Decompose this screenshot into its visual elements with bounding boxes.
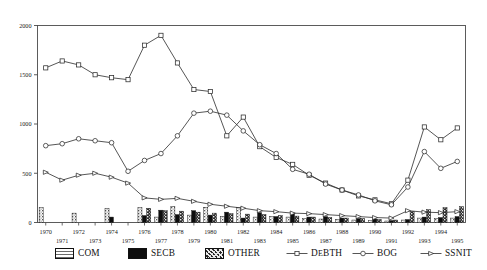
legend-item-ssnit[interactable]: SSNIT [420, 241, 472, 265]
marker-ssnit-1976 [142, 196, 147, 200]
bar-com-1980 [204, 207, 208, 222]
x-axis-tick-label: 1978 [171, 228, 183, 235]
marker-debth-1981 [225, 134, 229, 138]
marker-ssnit-1991 [389, 216, 394, 220]
legend-linekey-bog [352, 249, 374, 258]
marker-bog-1981 [225, 113, 230, 118]
marker-ssnit-1995 [455, 210, 460, 214]
legend-linekey-debth [286, 249, 308, 258]
bar-com-1976 [138, 208, 142, 223]
bar-other-1982 [245, 214, 249, 222]
legend-label-secb: SECB [151, 248, 175, 258]
y-axis-tick-label: 1000 [19, 120, 31, 127]
x-axis-tick-label: 1992 [402, 228, 414, 235]
marker-bog-1986 [307, 172, 312, 177]
marker-bog-1984 [274, 151, 279, 156]
bar-com-1985 [286, 217, 290, 222]
marker-bog-1974 [109, 140, 114, 145]
bar-secb-1993 [422, 217, 426, 222]
bar-other-1976 [147, 208, 151, 222]
marker-debth-1980 [208, 89, 212, 93]
marker-ssnit-1974 [109, 175, 114, 179]
marker-ssnit-1993 [422, 210, 427, 214]
legend-label-com: COM [78, 248, 100, 258]
marker-debth-1976 [142, 43, 146, 47]
legend-item-debth[interactable]: DEBTH [286, 241, 342, 265]
x-axis-tick-label: 1990 [369, 228, 381, 235]
legend-item-bog[interactable]: BOG [352, 241, 397, 265]
marker-ssnit-1970 [43, 170, 48, 174]
marker-bog-1989 [356, 193, 361, 198]
bar-secb-1979 [192, 211, 196, 223]
marker-bog-1983 [257, 142, 262, 147]
bar-other-1992 [410, 212, 414, 223]
chart-legend: COMSECBOTHERDEBTHBOGSSNIT [0, 241, 487, 265]
bar-secb-1988 [340, 218, 344, 222]
bar-other-1987 [328, 218, 332, 223]
bar-secb-1981 [225, 212, 229, 222]
x-axis-tick-label: 1976 [138, 228, 150, 235]
plot-frame [38, 26, 466, 223]
bar-com-1990 [368, 221, 372, 223]
bar-other-1995 [459, 207, 463, 223]
chart-figure: 1970197119721973197419751976197719781979… [0, 0, 487, 270]
marker-debth-1975 [126, 78, 130, 82]
marker-ssnit-1986 [307, 212, 312, 216]
bar-secb-1983 [258, 213, 262, 223]
bar-secb-1991 [389, 221, 393, 223]
bar-com-1988 [335, 220, 339, 223]
marker-debth-1970 [44, 66, 48, 70]
bar-com-1987 [319, 219, 323, 222]
line-debth [46, 35, 458, 203]
bar-secb-1976 [142, 216, 146, 223]
bar-secb-1989 [356, 219, 360, 223]
legend-swatch-other [205, 248, 224, 259]
bar-com-1986 [303, 219, 307, 223]
legend-item-com[interactable]: COM [55, 241, 100, 265]
marker-ssnit-1994 [438, 211, 443, 215]
marker-debth-1992 [406, 178, 410, 182]
marker-ssnit-1979 [191, 199, 196, 203]
legend-marker-ssnit [429, 251, 434, 255]
bar-secb-1992 [406, 220, 410, 223]
x-axis-tick-label: 1982 [237, 228, 249, 235]
bar-secb-1995 [455, 217, 459, 223]
bar-com-1972 [72, 213, 76, 222]
y-axis-tick-label: 1500 [19, 71, 31, 78]
marker-ssnit-1983 [257, 209, 262, 213]
marker-debth-1974 [109, 76, 113, 80]
marker-bog-1971 [60, 141, 65, 146]
marker-debth-1971 [60, 59, 64, 63]
marker-bog-1995 [455, 159, 460, 164]
marker-bog-1985 [290, 167, 295, 172]
legend-swatch-secb [128, 248, 147, 259]
bar-com-1977 [154, 217, 158, 222]
legend-item-secb[interactable]: SECB [128, 241, 175, 265]
bar-com-1983 [253, 217, 257, 222]
marker-debth-1995 [455, 126, 459, 130]
marker-debth-1973 [93, 73, 97, 77]
bar-com-1974 [105, 208, 109, 222]
bar-com-1981 [220, 217, 224, 223]
y-axis-tick-label: 0 [28, 219, 31, 226]
marker-debth-1977 [159, 33, 163, 37]
marker-ssnit-1982 [241, 206, 246, 210]
bar-com-1995 [451, 218, 455, 222]
marker-ssnit-1971 [60, 178, 65, 182]
marker-ssnit-1973 [93, 171, 98, 175]
bar-secb-1977 [159, 210, 163, 222]
marker-ssnit-1980 [208, 202, 213, 206]
x-axis-tick-label: 1980 [204, 228, 216, 235]
bar-com-1970 [39, 208, 43, 223]
bar-secb-1974 [109, 217, 113, 222]
legend-item-other[interactable]: OTHER [205, 241, 260, 265]
legend-label-ssnit: SSNIT [445, 248, 472, 258]
bar-other-1977 [163, 211, 167, 223]
bar-com-1982 [237, 208, 241, 223]
chart-plot-area: 1970197119721973197419751976197719781979… [0, 0, 487, 270]
bar-other-1984 [278, 216, 282, 223]
bar-com-1994 [434, 219, 438, 223]
marker-ssnit-1989 [356, 214, 361, 218]
bar-other-1981 [229, 214, 233, 223]
marker-bog-1982 [241, 129, 246, 134]
